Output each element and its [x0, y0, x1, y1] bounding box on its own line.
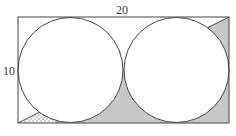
height-label: 10 — [3, 64, 15, 78]
width-label: 20 — [116, 3, 128, 17]
shaded-region — [55, 17, 229, 123]
geometry-diagram: 20 10 — [0, 0, 236, 136]
